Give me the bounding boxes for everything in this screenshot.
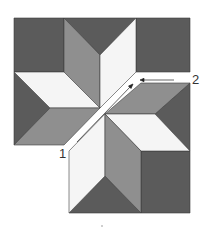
arrow-2-head (140, 78, 144, 81)
step-label-1: 1 (59, 147, 66, 160)
corner-square-top-left (14, 18, 64, 72)
corner-square-top-right (136, 18, 190, 72)
quilt-block-diagram: .d { fill: #5b5b5b; stroke: #3c3c3c; str… (0, 0, 209, 232)
step-label-2: 2 (192, 73, 199, 86)
corner-square-bottom-right (141, 151, 190, 213)
artifact-mark (101, 225, 103, 227)
